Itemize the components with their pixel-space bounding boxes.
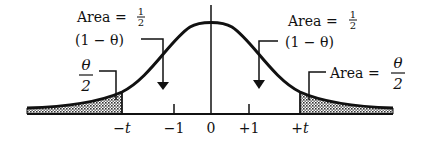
right-center-area-label: Area = [287,13,338,29]
right-tail-frac-num: θ [393,54,402,72]
right-center-arrowhead [253,80,265,89]
right-center-frac-num: 1 [350,9,356,20]
tick-label-minus-t: −t [113,120,131,136]
right-center-frac-den: 2 [350,20,356,31]
left-center-arrowhead [157,82,169,90]
tick-label-plus-1: +1 [239,120,260,136]
tick-label-0: 0 [207,120,216,136]
left-tail-frac-num: θ [81,56,90,74]
right-center-theta-label: (1 − θ) [285,34,334,50]
left-tail-frac-den: 2 [80,77,91,95]
tick-label-minus-1: −1 [164,120,185,136]
left-center-frac-num: 1 [138,6,144,17]
right-tail-frac-den: 2 [392,75,403,93]
left-center-frac-den: 2 [138,17,144,28]
tick-label-plus-t: +t [291,120,309,136]
normal-curve-diagram: −t −1 0 +1 +t Area = 1 2 (1 − θ) θ 2 Are… [0,0,421,151]
left-center-area-label: Area = [76,9,127,25]
left-center-theta-label: (1 − θ) [75,32,124,48]
right-tail-area-label: Area = [329,65,380,81]
